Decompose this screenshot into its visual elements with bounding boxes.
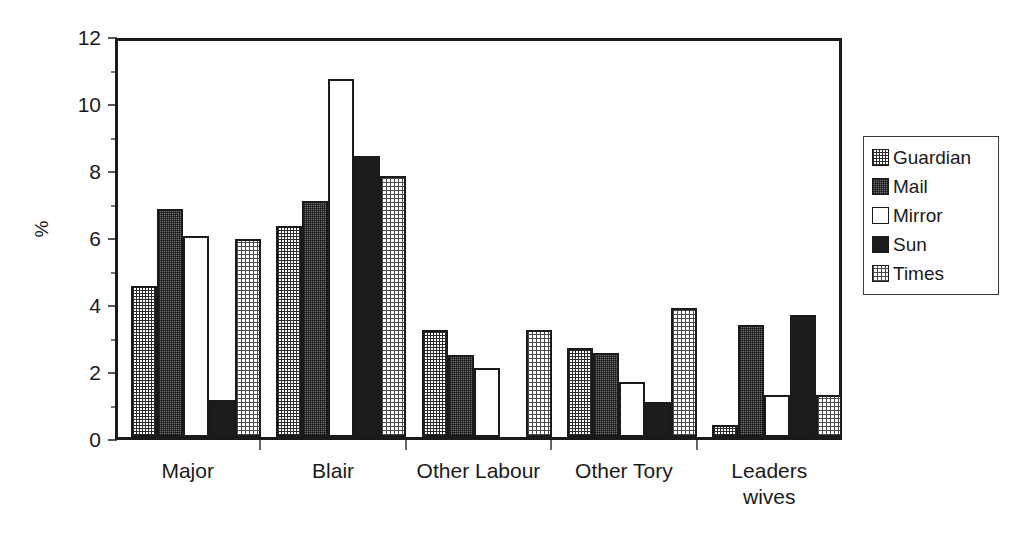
y-tick-label: 6 bbox=[57, 228, 101, 249]
bar-guardian-major bbox=[131, 286, 157, 437]
bar-times-blair bbox=[380, 176, 406, 437]
bars-layer bbox=[118, 41, 839, 437]
bar-mirror-other-tory bbox=[619, 382, 645, 437]
y-axis-title: % bbox=[31, 201, 53, 257]
x-category-label: Major bbox=[115, 458, 260, 484]
x-tick-mark bbox=[550, 440, 552, 450]
bar-mail-other-labour bbox=[448, 355, 474, 437]
bar-times-other-labour bbox=[526, 330, 552, 437]
legend-item[interactable]: Mirror bbox=[872, 201, 992, 230]
legend-item[interactable]: Sun bbox=[872, 230, 992, 259]
bar-times-other-tory bbox=[671, 308, 697, 437]
y-tick-label: 12 bbox=[57, 27, 101, 48]
bar-sun-blair bbox=[354, 156, 380, 437]
bar-mail-leaders-wives bbox=[738, 325, 764, 437]
y-tick-label: 2 bbox=[57, 362, 101, 383]
legend: Guardian Mail Mirror Sun Times bbox=[863, 136, 999, 295]
legend-label: Mirror bbox=[893, 206, 943, 225]
bar-sun-major bbox=[209, 400, 235, 437]
bar-mail-other-tory bbox=[593, 353, 619, 437]
x-category-label: Other Labour bbox=[406, 458, 551, 484]
bar-times-major bbox=[235, 239, 261, 437]
bar-chart-figure: % 024681012 MajorBlairOther LabourOther … bbox=[0, 0, 1031, 533]
x-tick-mark bbox=[696, 440, 698, 450]
bar-mail-blair bbox=[302, 201, 328, 437]
legend-item[interactable]: Times bbox=[872, 259, 992, 288]
bar-mail-major bbox=[157, 209, 183, 437]
legend-label: Sun bbox=[893, 235, 927, 254]
legend-swatch-sun-icon bbox=[872, 236, 889, 253]
legend-label: Mail bbox=[893, 177, 928, 196]
bar-times-leaders-wives bbox=[816, 395, 842, 437]
plot-area bbox=[115, 38, 842, 440]
bar-mirror-leaders-wives bbox=[764, 395, 790, 437]
legend-swatch-mirror-icon bbox=[872, 207, 889, 224]
x-tick-mark bbox=[405, 440, 407, 450]
legend-item[interactable]: Guardian bbox=[872, 143, 992, 172]
bar-mirror-blair bbox=[328, 79, 354, 437]
bar-guardian-other-tory bbox=[567, 348, 593, 437]
legend-label: Guardian bbox=[893, 148, 971, 167]
y-tick-label: 4 bbox=[57, 295, 101, 316]
x-tick-mark bbox=[259, 440, 261, 450]
legend-item[interactable]: Mail bbox=[872, 172, 992, 201]
bar-guardian-leaders-wives bbox=[712, 425, 738, 437]
y-tick-label: 8 bbox=[57, 161, 101, 182]
x-category-label: Leaders wives bbox=[697, 458, 842, 510]
legend-swatch-mail-icon bbox=[872, 178, 889, 195]
bar-mirror-other-labour bbox=[474, 368, 500, 437]
y-tick-label: 0 bbox=[57, 429, 101, 450]
x-category-label: Blair bbox=[260, 458, 405, 484]
legend-label: Times bbox=[893, 264, 944, 283]
y-tick-label: 10 bbox=[57, 94, 101, 115]
bar-guardian-other-labour bbox=[422, 330, 448, 437]
x-category-label: Other Tory bbox=[551, 458, 696, 484]
bar-sun-other-tory bbox=[645, 402, 671, 437]
legend-swatch-guardian-icon bbox=[872, 149, 889, 166]
bar-sun-leaders-wives bbox=[790, 315, 816, 437]
bar-mirror-major bbox=[183, 236, 209, 437]
bar-guardian-blair bbox=[276, 226, 302, 437]
legend-swatch-times-icon bbox=[872, 265, 889, 282]
